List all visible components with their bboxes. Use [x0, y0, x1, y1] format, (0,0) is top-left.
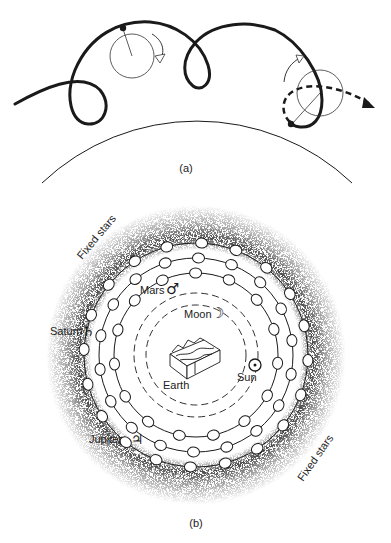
- caption-b: (b): [189, 517, 202, 529]
- planet-dot-2: [288, 121, 294, 127]
- moon-symbol-icon: ☽: [211, 304, 224, 322]
- sun-symbol-dot-icon: [254, 364, 257, 367]
- saturn-label: Saturn: [50, 325, 82, 337]
- panel-b: Earth Sun Moon ☽ Mars ♂ Saturn ♄ Jupiter…: [46, 205, 346, 529]
- ptolemaic-diagram: (a) Earth Sun Moon: [0, 0, 391, 543]
- dashed-continuation: [284, 86, 371, 122]
- mars-symbol-icon: ♂: [166, 280, 179, 298]
- epicycle-radius-1: [123, 29, 132, 56]
- moon-label: Moon: [184, 308, 212, 320]
- earth-label: Earth: [163, 379, 189, 391]
- epicycle-loop: [79, 343, 90, 355]
- rotation-arrowhead-icon-2: [296, 55, 304, 63]
- jupiter-label: Jupiter: [89, 433, 122, 445]
- epicycle-loop: [190, 268, 202, 278]
- epicycle-loop: [303, 354, 314, 366]
- epicycle-loop: [187, 447, 199, 457]
- deferent-circle: [42, 121, 352, 183]
- epicycle-loop: [192, 253, 204, 263]
- mars-label: Mars: [140, 284, 165, 296]
- panel-a: (a): [15, 22, 375, 183]
- jupiter-symbol-icon: ♃: [131, 431, 144, 447]
- epicycle-path: [15, 22, 322, 127]
- saturn-symbol-icon: ♄: [82, 323, 95, 339]
- planet-dot-1: [120, 25, 126, 31]
- epicycle-loop: [195, 238, 207, 249]
- caption-a: (a): [179, 162, 192, 174]
- epicycle-loop: [184, 462, 196, 473]
- sun-label: Sun: [237, 371, 257, 383]
- rotation-arrowhead-icon-1: [155, 54, 165, 63]
- rotation-arrow-icon-2: [284, 58, 300, 82]
- arrowhead-icon: [362, 97, 375, 108]
